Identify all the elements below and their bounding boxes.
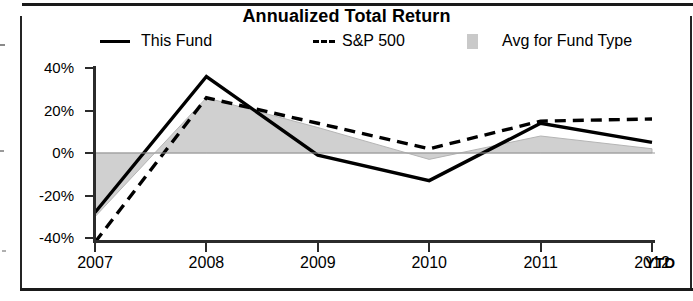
y-axis-label: 0% [22, 145, 74, 160]
x-axis-label: 2007 [60, 255, 130, 271]
x-axis-label: 2008 [171, 255, 241, 271]
x-axis-tick [540, 243, 542, 252]
x-axis-label: 2009 [283, 255, 353, 271]
x-axis-tick [651, 243, 653, 252]
y-axis-tick [85, 110, 94, 112]
y-axis-tick [85, 195, 94, 197]
avg-fund-type-band [95, 98, 652, 217]
y-axis-tick [85, 152, 94, 154]
plot-area: 40%20%0%-20%-40% 20072008200920102011201… [0, 0, 693, 301]
y-axis-tick [85, 67, 94, 69]
y-axis-tick [85, 237, 94, 239]
x-axis-tick [428, 243, 430, 252]
x-axis-label: 2011 [506, 255, 576, 271]
y-axis-label: 20% [22, 103, 74, 118]
x-axis-line [93, 240, 655, 243]
y-axis-label: -20% [22, 188, 74, 203]
chart-figure: Annualized Total Return This Fund S&P 50… [0, 0, 693, 301]
y-axis-line [93, 66, 96, 243]
sp500-line [95, 98, 652, 243]
x-axis-ytd-label: YTD [645, 255, 675, 271]
y-axis-label: -40% [22, 230, 74, 245]
x-axis-label: 2010 [394, 255, 464, 271]
x-axis-tick [205, 243, 207, 252]
x-axis-tick [94, 243, 96, 252]
x-axis-tick [317, 243, 319, 252]
y-axis-label: 40% [22, 60, 74, 75]
